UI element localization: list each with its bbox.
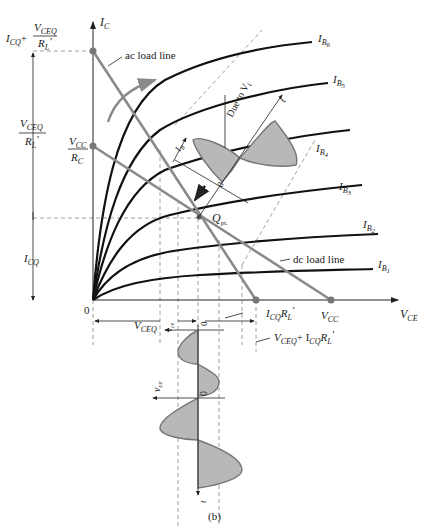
svg-text:RC: RC <box>70 151 84 166</box>
svg-text:VCC: VCC <box>69 135 87 150</box>
curve-ib6 <box>93 42 312 300</box>
figure-caption: (b) <box>208 510 221 523</box>
svg-text:VCEQ: VCEQ <box>20 117 43 132</box>
ib-wave-lobe-left <box>193 139 240 182</box>
dc-load-line-pointer <box>280 259 290 261</box>
q-point-label: Qpt. <box>212 211 228 227</box>
guide-ib-left <box>175 30 262 125</box>
label-vcc-x: VCC <box>321 309 339 324</box>
label-ib4: IB4 <box>315 142 329 159</box>
dc-load-line-label: dc load line <box>293 253 344 265</box>
ib-t-label: t <box>278 97 288 104</box>
origin-label: 0 <box>84 304 90 316</box>
vce-zero-label-top: 0 <box>199 321 209 326</box>
label-ib6: IB6 <box>317 32 331 49</box>
vce-waveform <box>153 325 242 495</box>
dc-load-line-x-point <box>328 297 335 304</box>
svg-text:VCEQ: VCEQ <box>34 21 57 36</box>
label-ib2: IB2 <box>362 218 376 235</box>
svg-text:RL′: RL′ <box>24 133 39 150</box>
vce-lobe-3 <box>160 398 198 440</box>
label-vceq-over-rl: VCEQ RL′ <box>19 117 46 150</box>
label-ac-intercept: ICQ+ VCEQ RL′ <box>5 21 57 52</box>
label-ib1: IB1 <box>377 258 390 275</box>
dc-load-line-top-point <box>90 143 97 150</box>
ac-load-line-label: ac load line <box>125 49 176 61</box>
label-vce-wave: vce <box>151 381 164 392</box>
label-vcc-over-rc: VCC RC <box>68 135 88 166</box>
guide-lines <box>33 30 315 529</box>
icq-rl-pointer <box>225 313 243 318</box>
svg-text:RL′: RL′ <box>37 35 52 52</box>
label-ib3: IB3 <box>338 180 352 197</box>
ac-dc-load-line-diagram: IC VCE 0 ICQ+ VCEQ RL′ VCEQ RL′ VCC RC I… <box>0 0 437 529</box>
curve-labels: IB6 IB5 IB4 IB3 IB2 IB1 <box>315 32 390 275</box>
y-axis-label: IC <box>99 15 110 31</box>
label-ib5: IB5 <box>332 73 346 90</box>
curve-ib1 <box>93 269 373 300</box>
label-icq-rl: ICQRL′ <box>265 304 295 322</box>
vce-lobe-1 <box>178 330 198 364</box>
ac-load-line <box>93 51 256 300</box>
x-axis-label: VCE <box>400 307 418 323</box>
vce-t-label: t <box>198 500 208 503</box>
curve-ib5 <box>93 83 328 300</box>
label-vceq-plus-icq-rl: VCEQ+ ICQRL′ <box>274 328 335 346</box>
sum-pointer <box>256 338 270 342</box>
ac-load-line-pointer <box>108 57 122 66</box>
due-to-vi-label: Due to Vi <box>224 80 254 120</box>
label-vce-small: vce <box>164 322 175 332</box>
label-icq: ICQ <box>23 252 39 267</box>
svg-text:ICQ+: ICQ+ <box>5 32 27 47</box>
vce-zero-label: 0 <box>198 391 209 396</box>
vce-lobe-4 <box>198 440 242 488</box>
ac-load-line-top-point <box>90 48 97 55</box>
ib-label: IB <box>172 142 185 154</box>
ac-load-line-x-point <box>253 297 260 304</box>
shift-arrow <box>195 186 205 200</box>
